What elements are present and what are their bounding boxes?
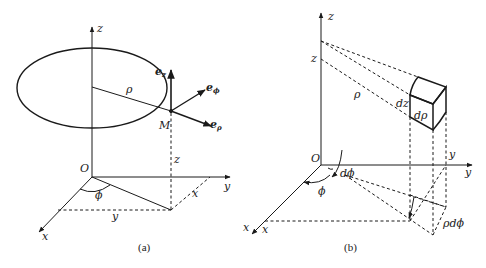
base-y-dashed	[410, 165, 446, 221]
panel-b	[252, 13, 472, 235]
projection-line	[92, 177, 171, 210]
e-phi-label: eϕ	[206, 81, 220, 95]
x-axis	[39, 177, 92, 232]
phi-label: ϕ	[95, 189, 103, 202]
origin-label: O	[80, 162, 89, 175]
point-m	[169, 109, 172, 112]
cylindrical-coordinates-figure: z O y x ρ M z ϕ x y ez eϕ eρ (a)	[0, 0, 486, 268]
z-axis-label: z	[96, 22, 103, 35]
phi-arc	[304, 175, 330, 183]
dphi-label: dϕ	[340, 167, 355, 180]
height-z-label: z	[173, 153, 180, 166]
e-rho-vector	[171, 111, 211, 126]
panel-b-labels: z z O y y x x ρ dz dρ dϕ ϕ ρdϕ (b)	[243, 10, 472, 254]
phi-label: ϕ	[318, 185, 326, 198]
caption-a: (a)	[138, 241, 151, 254]
z-axis-label: z	[327, 10, 334, 23]
volume-element	[410, 77, 446, 130]
mid-ray-dashed	[321, 41, 410, 95]
y-axis-label: y	[223, 180, 231, 193]
x-component-dashed	[171, 177, 210, 210]
rho-label: ρ	[125, 83, 133, 96]
top-ray-dashed	[321, 41, 418, 77]
proj-y-label: y	[111, 210, 119, 223]
e-phi-vector	[171, 90, 205, 111]
x-axis-label: x	[243, 221, 250, 234]
rho-dphi-label: ρdϕ	[442, 217, 465, 230]
dphi-small-arc	[328, 168, 333, 169]
panel-a	[17, 27, 230, 232]
rho-label: ρ	[353, 88, 361, 101]
x-axis-label: x	[42, 230, 49, 243]
drho-label: dρ	[414, 109, 428, 122]
panel-a-labels: z O y x ρ M z ϕ x y ez eϕ eρ (a)	[42, 22, 231, 254]
proj-x-label: x	[192, 187, 199, 200]
y-mark-label: y	[448, 148, 456, 161]
z-mark-label: z	[310, 52, 317, 65]
y-axis-label: y	[464, 166, 472, 179]
dz-label: dz	[396, 97, 409, 110]
e-z-label: ez	[155, 65, 167, 79]
x-mark-label: x	[262, 223, 269, 236]
point-m-label: M	[158, 119, 171, 132]
origin-label: O	[311, 152, 320, 165]
e-rho-label: eρ	[210, 118, 222, 132]
caption-b: (b)	[344, 241, 357, 254]
